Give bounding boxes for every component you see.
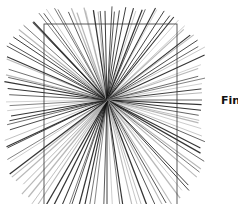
starburst-diagram [0,0,238,204]
radial-line [10,100,107,174]
radial-line [107,9,145,100]
radial-lines [4,6,205,204]
radial-line [5,100,107,140]
radial-line [107,100,180,198]
radial-line [11,100,107,116]
fin-label: Fin [221,94,238,107]
radial-line [7,46,107,100]
